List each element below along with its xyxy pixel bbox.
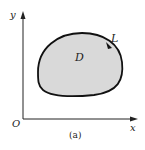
y-axis-label: y: [9, 9, 16, 20]
x-axis-arrow-icon: [130, 117, 138, 122]
region-label: D: [74, 51, 84, 64]
region-d: [38, 33, 122, 96]
figure-caption: (a): [69, 130, 81, 140]
diagram-canvas: y O x D L (a): [0, 0, 145, 150]
origin-label: O: [12, 118, 20, 129]
y-axis-arrow-icon: [21, 11, 26, 19]
x-axis-label: x: [130, 122, 136, 133]
curve-label: L: [110, 32, 118, 45]
